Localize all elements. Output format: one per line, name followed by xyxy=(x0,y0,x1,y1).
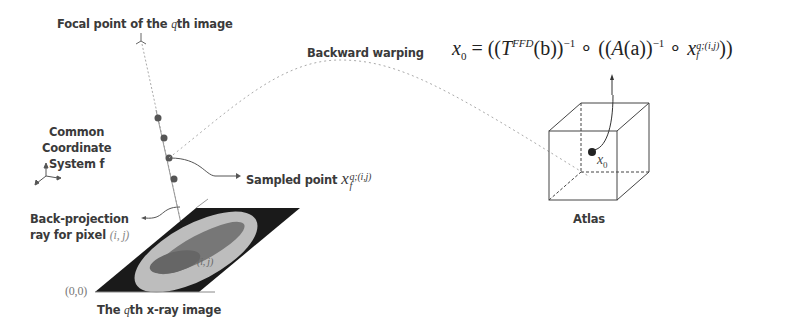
focal-point-icon xyxy=(136,33,146,44)
backprojection-label: Back-projection ray for pixel (i, j) xyxy=(30,211,129,243)
atlas-point xyxy=(588,148,596,156)
eq-equals: = (( xyxy=(466,37,501,59)
eq-x-sub: f xyxy=(696,50,719,59)
origin-label: (0,0) xyxy=(65,284,87,299)
eq-b: (b)) xyxy=(534,37,564,59)
eq-T-sup: FFD xyxy=(512,37,533,49)
sampled-point-arrow xyxy=(170,158,236,176)
eq-T: T xyxy=(501,37,512,59)
eq-compose2: ∘ xyxy=(664,37,687,59)
xray-suffix: th x-ray image xyxy=(130,303,221,317)
eq-A: A xyxy=(612,37,624,59)
diagram-canvas: Focal point of the qth image Common Coor… xyxy=(0,0,788,335)
eq-inv2: −1 xyxy=(653,37,665,49)
backward-warping-curve xyxy=(169,60,590,177)
pixel-mark-text: (i, j) xyxy=(197,256,213,267)
eq-x-sup: q;(i,j) xyxy=(696,41,719,50)
backprojection-line-1: Back-projection xyxy=(30,211,129,227)
eq-close: )) xyxy=(719,37,732,59)
pixel-mark: (i, j) xyxy=(197,256,213,267)
backprojection-arrow xyxy=(145,207,180,218)
sample-point xyxy=(171,176,178,183)
focal-point-suffix: th image xyxy=(177,17,233,31)
coord-line-1: Common xyxy=(42,124,111,140)
backward-warping-label: Backward warping xyxy=(307,46,424,60)
eq-a: (a)) xyxy=(624,37,653,59)
sampled-point-text: Sampled point xyxy=(246,173,341,187)
pixel-index: (i, j) xyxy=(110,228,129,242)
xray-prefix: The xyxy=(97,303,124,317)
sampled-point-label: Sampled point xq;(i,j)f xyxy=(246,169,371,190)
sampled-point-sup: q;(i,j) xyxy=(350,172,372,181)
backward-warping-equation: x0 = ((TFFD(b))−1 ∘ ((A(a))−1 ∘ xq;(i,j)… xyxy=(452,36,733,62)
coord-line-3: System f xyxy=(42,156,111,172)
backprojection-line-2: ray for pixel xyxy=(30,228,110,242)
eq-compose1: ∘ (( xyxy=(575,37,611,59)
focal-point-text: Focal point of the xyxy=(57,17,171,31)
eq-inv1: −1 xyxy=(564,37,576,49)
atlas-point-label: x0 xyxy=(597,152,607,170)
eq-lhs: x xyxy=(452,37,461,59)
coord-line-2: Coordinate xyxy=(42,140,111,156)
focal-point-label: Focal point of the qth image xyxy=(57,17,233,31)
atlas-x-sub: 0 xyxy=(603,160,607,170)
eq-x: x xyxy=(687,37,696,59)
sampled-point-symbol: x xyxy=(341,169,348,188)
xray-image-label: The qth x-ray image xyxy=(97,303,221,317)
sample-point xyxy=(155,115,162,122)
coord-system-label: Common Coordinate System f xyxy=(42,124,111,172)
atlas-label: Atlas xyxy=(573,212,605,226)
sample-point xyxy=(161,135,168,142)
